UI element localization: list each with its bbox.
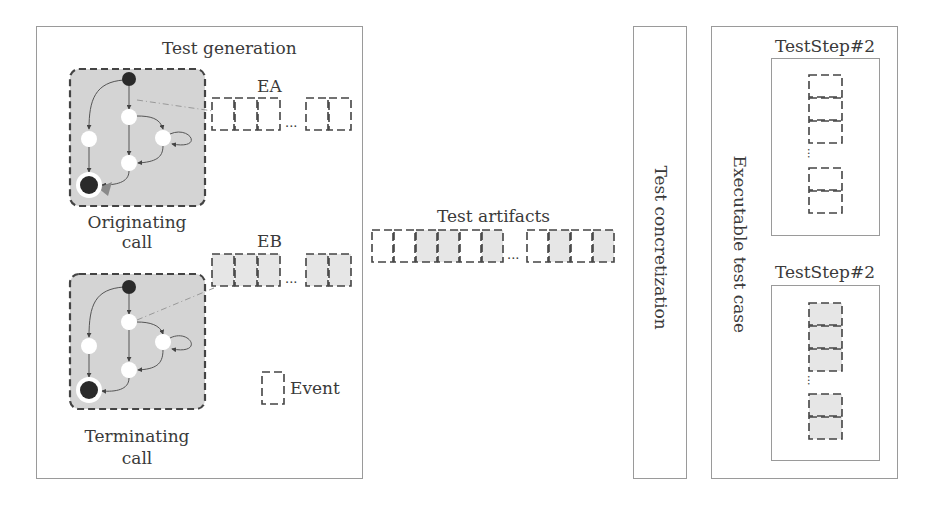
test-step-2-ellipsis: ...	[806, 375, 817, 386]
test-step-2-event-stack	[0, 0, 936, 506]
